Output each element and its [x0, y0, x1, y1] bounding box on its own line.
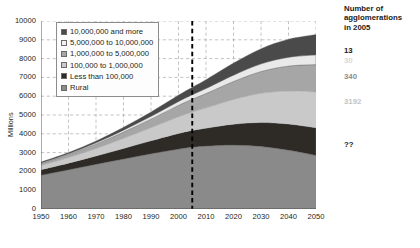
- y-tick-8000: 8000: [0, 55, 36, 63]
- legend-swatch-icon: [61, 62, 67, 68]
- legend-label: 5,000,000 to 10,000,000: [70, 38, 153, 47]
- side-heading-line1: Number of: [344, 4, 420, 13]
- legend-label: Less than 100,000: [70, 72, 133, 81]
- legend-swatch-icon: [61, 40, 67, 46]
- side-heading-line3: in 2005: [344, 23, 420, 32]
- legend-label: 1,000,000 to 5,000,000: [70, 49, 149, 58]
- y-tick-0: 0: [0, 205, 36, 213]
- legend-label: 10,000,000 and more: [70, 27, 143, 36]
- side-value-0: 13: [344, 46, 353, 55]
- legend-swatch-icon: [61, 29, 67, 35]
- legend-item-3[interactable]: 100,000 to 1,000,000: [61, 60, 153, 71]
- legend-label: 100,000 to 1,000,000: [70, 61, 143, 70]
- legend-item-5[interactable]: Rural: [61, 82, 153, 93]
- x-tick-2050: 2050: [296, 213, 336, 221]
- side-value-3: 3192: [344, 97, 361, 106]
- y-tick-2000: 2000: [0, 167, 36, 175]
- y-tick-4000: 4000: [0, 130, 36, 138]
- legend-swatch-icon: [61, 73, 67, 79]
- y-tick-9000: 9000: [0, 36, 36, 44]
- chart-legend: 10,000,000 and more5,000,000 to 10,000,0…: [56, 22, 159, 97]
- side-value-1: 30: [344, 56, 353, 65]
- y-tick-3000: 3000: [0, 149, 36, 157]
- legend-item-1[interactable]: 5,000,000 to 10,000,000: [61, 37, 153, 48]
- chart-root: Millions 0100020003000400050006000700080…: [0, 0, 420, 248]
- y-tick-6000: 6000: [0, 92, 36, 100]
- legend-item-4[interactable]: Less than 100,000: [61, 71, 153, 82]
- side-value-2: 340: [344, 72, 357, 81]
- y-tick-7000: 7000: [0, 73, 36, 81]
- legend-swatch-icon: [61, 51, 67, 57]
- legend-label: Rural: [70, 83, 88, 92]
- side-value-4: ??: [344, 140, 354, 149]
- legend-swatch-icon: [61, 85, 67, 91]
- side-heading-line2: agglomerations: [344, 13, 420, 22]
- y-tick-10000: 10000: [0, 17, 36, 25]
- y-tick-5000: 5000: [0, 111, 36, 119]
- side-panel-heading: Number of agglomerations in 2005: [344, 4, 420, 35]
- y-tick-1000: 1000: [0, 186, 36, 194]
- legend-item-0[interactable]: 10,000,000 and more: [61, 26, 153, 37]
- legend-item-2[interactable]: 1,000,000 to 5,000,000: [61, 48, 153, 59]
